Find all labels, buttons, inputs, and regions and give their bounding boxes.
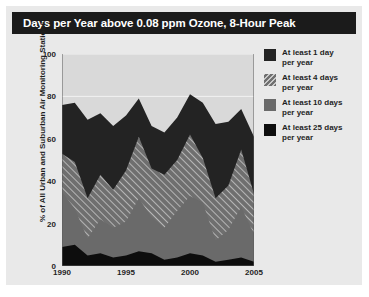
legend-item-1[interactable]: At least 1 day per year — [264, 48, 362, 68]
y-tick-60: 60 — [36, 135, 56, 144]
page-title: Days per Year above 0.08 ppm Ozone, 8-Ho… — [12, 17, 296, 29]
legend-swatch-icon-1 — [264, 49, 276, 61]
chart-legend: At least 1 day per yearAt least 4 days p… — [264, 48, 362, 148]
chart-region: % of All Urban and Suburban Air Monitori… — [6, 40, 362, 285]
y-axis-tick-labels: 020406080100 — [34, 40, 56, 285]
legend-label-2: At least 4 days per year — [282, 73, 338, 93]
x-tick-1990: 1990 — [53, 268, 71, 277]
x-tick-2005: 2005 — [245, 268, 263, 277]
legend-item-2[interactable]: At least 4 days per year — [264, 73, 362, 93]
legend-item-3[interactable]: At least 10 days per year — [264, 98, 362, 118]
legend-swatch-icon-3 — [264, 99, 276, 111]
chart-plot-area — [62, 54, 254, 266]
y-tick-20: 20 — [36, 220, 56, 229]
figure-card: Days per Year above 0.08 ppm Ozone, 8-Ho… — [6, 6, 362, 285]
legend-label-4: At least 25 days per year — [282, 123, 342, 143]
chart-title-banner: Days per Year above 0.08 ppm Ozone, 8-Ho… — [12, 12, 356, 34]
legend-item-4[interactable]: At least 25 days per year — [264, 123, 362, 143]
legend-label-3: At least 10 days per year — [282, 98, 342, 118]
x-tick-1995: 1995 — [117, 268, 135, 277]
legend-swatch-icon-2 — [264, 74, 276, 86]
y-tick-100: 100 — [36, 50, 56, 59]
x-axis-tick-labels: 1990199520002005 — [62, 268, 254, 282]
legend-swatch-icon-4 — [264, 124, 276, 136]
y-tick-80: 80 — [36, 92, 56, 101]
x-tick-2000: 2000 — [181, 268, 199, 277]
y-tick-40: 40 — [36, 177, 56, 186]
legend-label-1: At least 1 day per year — [282, 48, 334, 68]
